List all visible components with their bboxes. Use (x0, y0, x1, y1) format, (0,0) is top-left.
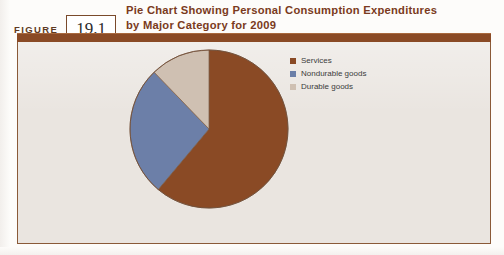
legend-label-services: Services (301, 57, 332, 65)
page-title: Pie Chart Showing Personal Consumption E… (126, 3, 486, 33)
chart-title-line-1: Pie Chart Showing Personal Consumption E… (126, 4, 437, 16)
chart-title-line-2: by Major Category for 2009 (126, 19, 276, 31)
pie-chart-svg (126, 46, 292, 212)
pie-slice-group (130, 50, 288, 208)
pie-chart (126, 46, 292, 212)
legend-item-services: Services (290, 55, 460, 66)
legend-item-nondurable-goods: Nondurable goods (290, 68, 460, 79)
chart-legend: Services Nondurable goods Durable goods (290, 55, 460, 94)
legend-label-durable-goods: Durable goods (301, 83, 353, 91)
figure-page: FIGURE 19.1 Pie Chart Showing Personal C… (0, 0, 504, 255)
legend-swatch-services (290, 58, 296, 64)
chart-panel-background: Services Nondurable goods Durable goods (18, 42, 490, 243)
chart-panel: Services Nondurable goods Durable goods (17, 42, 491, 244)
legend-item-durable-goods: Durable goods (290, 81, 460, 92)
legend-swatch-nondurable-goods (290, 71, 296, 77)
page-edge-shading-bottom (0, 247, 504, 255)
legend-swatch-durable-goods (290, 84, 296, 90)
legend-label-nondurable-goods: Nondurable goods (301, 70, 366, 78)
